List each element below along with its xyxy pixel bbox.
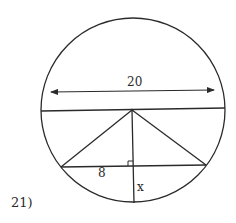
diameter-dimension-arrow [51, 90, 214, 92]
problem-number: 21) [11, 196, 33, 209]
radius-left [61, 110, 132, 167]
circle-diagram [0, 0, 236, 223]
center-point [131, 109, 134, 112]
geometry-figure: 20 8 x [0, 0, 236, 223]
perpendicular-segment [132, 110, 134, 203]
unknown-x-label: x [137, 181, 144, 193]
radius-right [132, 110, 206, 165]
right-angle-marker [128, 161, 133, 166]
half-chord-label: 8 [98, 167, 106, 179]
diameter-label: 20 [127, 76, 142, 88]
